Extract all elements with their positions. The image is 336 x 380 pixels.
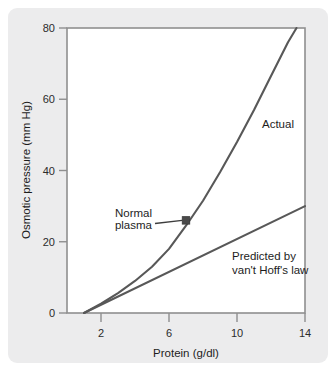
series-label-actual: Actual (262, 118, 294, 130)
x-tick-label-10: 10 (231, 327, 243, 339)
y-tick-label-20: 20 (43, 236, 55, 248)
x-tick-label-2: 2 (98, 327, 104, 339)
chart-root: 80 60 40 20 0 2 6 10 14 Protein (g/dl) O… (0, 0, 336, 380)
normal-plasma-marker (182, 217, 190, 225)
y-axis-ticks (59, 28, 67, 313)
y-tick-label-40: 40 (43, 165, 55, 177)
normal-plasma-label-line1: Normal (115, 207, 152, 219)
series-label-vant-hoff-line2: van't Hoff's law (232, 264, 309, 276)
x-axis-title: Protein (g/dl) (153, 347, 219, 359)
x-tick-label-14: 14 (299, 327, 311, 339)
y-tick-label-60: 60 (43, 93, 55, 105)
osmotic-pressure-chart: 80 60 40 20 0 2 6 10 14 Protein (g/dl) O… (0, 0, 336, 380)
y-axis-title: Osmotic pressure (mm Hg) (20, 101, 32, 239)
series-label-vant-hoff-line1: Predicted by (232, 250, 296, 262)
y-tick-label-0: 0 (49, 307, 55, 319)
y-tick-label-80: 80 (43, 22, 55, 34)
x-axis-ticks (101, 313, 305, 322)
x-tick-label-6: 6 (166, 327, 172, 339)
normal-plasma-label-line2: plasma (115, 219, 153, 231)
